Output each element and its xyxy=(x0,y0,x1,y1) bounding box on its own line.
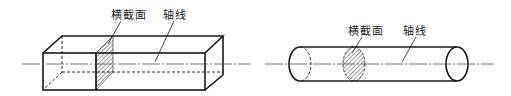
cross-section-leader xyxy=(108,21,121,44)
rectangular-bar xyxy=(22,21,251,90)
axis-leader xyxy=(155,21,174,62)
cross-section-hatch xyxy=(96,36,113,90)
cross-section-label: 横截面 xyxy=(111,6,147,22)
diagram-canvas xyxy=(0,0,511,96)
hidden-edges xyxy=(43,36,223,90)
cylindrical-bar xyxy=(265,37,494,81)
visible-edges xyxy=(43,36,223,90)
axis-label: 轴线 xyxy=(403,22,427,38)
cross-section-label: 横截面 xyxy=(348,22,384,38)
axis-label: 轴线 xyxy=(163,6,187,22)
axis-leader xyxy=(402,37,416,62)
